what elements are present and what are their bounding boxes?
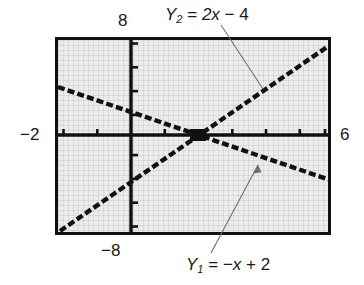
leader-arrowhead-y1: [253, 165, 261, 174]
leader-line-y2: [221, 25, 263, 89]
y2-equals: =: [187, 5, 197, 24]
y-axis-max-label: 8: [118, 12, 127, 29]
y1-equals: =: [208, 255, 218, 274]
y1-negative-sign: −: [223, 255, 233, 274]
y2-slope-term: 2x: [202, 5, 220, 24]
y1-var: Y: [186, 255, 197, 274]
y2-var: Y: [165, 5, 176, 24]
y1-operator: +: [246, 255, 256, 274]
x-axis-min-label: −2: [20, 126, 39, 143]
leader-line-y1: [211, 165, 258, 253]
y2-subscript: 2: [176, 13, 182, 25]
y2-equation-label: Y2 = 2x − 4: [165, 6, 249, 25]
y2-intercept: 4: [239, 5, 248, 24]
y1-intercept: 2: [261, 255, 270, 274]
graphing-calculator-figure: 8 −8 −2 6 Y2 = 2x − 4 Y1 = −x + 2: [0, 0, 364, 285]
y-axis-min-label: −8: [101, 242, 120, 259]
plot-canvas: [0, 0, 364, 285]
y1-slope-term: x: [233, 255, 242, 274]
y2-operator: −: [225, 5, 235, 24]
x-axis-max-label: 6: [340, 126, 349, 143]
y1-equation-label: Y1 = −x + 2: [186, 256, 270, 275]
intersection-marker: [190, 129, 206, 141]
y1-subscript: 1: [197, 263, 203, 275]
